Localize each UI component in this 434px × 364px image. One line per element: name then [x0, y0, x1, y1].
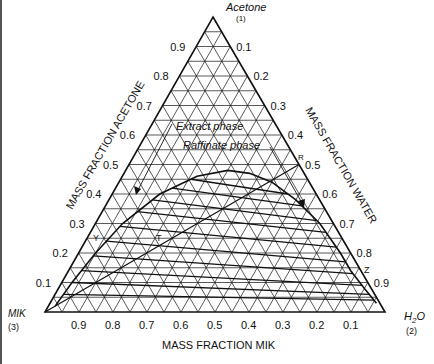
tick-label-water: 0.8	[357, 247, 372, 259]
tick-label-acetone: 0.9	[170, 41, 185, 53]
tick-label-acetone: 0.8	[153, 70, 168, 82]
tick-label-acetone: 0.3	[69, 218, 84, 230]
raffinate-phase-label: Raffinate phase	[183, 139, 260, 151]
tick-label-acetone: 0.5	[103, 159, 118, 171]
gridline-water	[96, 61, 239, 312]
tick-label-mik: 0.6	[173, 319, 188, 331]
gridline-water	[232, 179, 308, 312]
tick-label-mik: 0.4	[241, 319, 256, 331]
tick-label-mik: 0.8	[105, 319, 120, 331]
tick-label-water: 0.6	[322, 188, 337, 200]
vertex-water-label: H2O	[404, 310, 425, 325]
point-r-label: R	[298, 153, 304, 162]
extract-phase-label: Extract phase	[176, 120, 243, 132]
tick-label-water: 0.5	[305, 159, 320, 171]
tick-label-mik: 0.5	[207, 319, 222, 331]
point-y-label: Y	[93, 233, 99, 243]
tick-label-acetone: 0.6	[120, 129, 135, 141]
tick-label-acetone: 0.1	[36, 277, 51, 289]
vertex-acetone-label: Acetone	[225, 1, 266, 13]
tick-label-water: 0.9	[374, 277, 389, 289]
gridline-water	[266, 209, 325, 312]
tick-label-water: 0.4	[288, 129, 303, 141]
axis-title-mik: MASS FRACTION MIK	[162, 339, 276, 351]
gridline-water	[300, 238, 342, 312]
tick-label-acetone: 0.7	[137, 100, 152, 112]
tick-labels: 0.90.80.70.60.50.40.30.20.10.10.20.30.40…	[36, 41, 389, 332]
tick-label-water: 0.1	[236, 41, 251, 53]
tick-label-mik: 0.7	[139, 319, 154, 331]
tick-label-mik: 0.1	[343, 319, 358, 331]
tick-label-water: 0.7	[339, 218, 354, 230]
tick-label-acetone: 0.2	[53, 247, 68, 259]
point-z-label: Z	[364, 265, 370, 275]
tick-label-mik: 0.2	[309, 319, 324, 331]
point-t-label: T	[156, 233, 162, 243]
tie-line	[81, 271, 362, 286]
tick-label-water: 0.3	[271, 100, 286, 112]
axis-title-acetone: MASS FRACTION ACETONE	[63, 79, 146, 211]
vertex-water-index: (2)	[406, 326, 417, 336]
vertex-mik-label: MIK	[8, 308, 27, 319]
tick-label-mik: 0.9	[71, 319, 86, 331]
ternary-diagram: Acetone (1) MIK (3) H2O (2) MASS FRACTIO…	[0, 0, 434, 364]
tick-label-acetone: 0.4	[86, 188, 101, 200]
vertex-acetone-index: (1)	[236, 14, 246, 23]
tie-line	[137, 212, 326, 233]
vertex-mik-index: (3)	[8, 322, 19, 332]
tick-label-water: 0.2	[253, 70, 268, 82]
triangular-grid	[53, 32, 376, 312]
tie-line	[191, 179, 288, 194]
tick-label-mik: 0.3	[275, 319, 290, 331]
